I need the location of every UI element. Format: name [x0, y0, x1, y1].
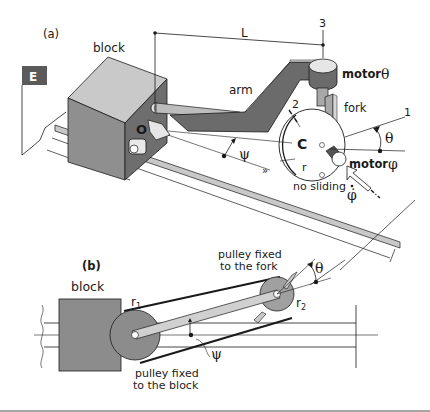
block-b-label: block: [71, 279, 105, 294]
axis-3-label: 3: [319, 17, 326, 30]
r2-label: r2: [296, 296, 306, 312]
theta-b-symbol: θ: [315, 260, 323, 276]
center-C-point: [320, 143, 325, 148]
axis-2-label: 2: [292, 98, 299, 111]
motor-theta-symbol: θ: [381, 66, 389, 82]
axis-1-label: 1: [404, 106, 411, 119]
C-label: C: [297, 136, 307, 152]
no-sliding-label: no sliding: [293, 180, 346, 193]
fork-label: fork: [344, 101, 367, 115]
E-badge: E: [22, 66, 47, 85]
panel-b: (b) block: [34, 248, 378, 392]
connecting-bar: [132, 290, 280, 339]
theta-symbol: θ: [385, 130, 393, 146]
r1-label: r1: [131, 295, 141, 311]
robot-mechanism-diagram: E block (a) O: [0, 0, 430, 412]
panel-a-label: (a): [43, 27, 59, 41]
ground-wall: [22, 85, 66, 155]
psi-b: [188, 318, 210, 357]
arm-label: arm: [229, 83, 253, 97]
panel-a: E block (a) O: [22, 17, 415, 285]
block-label: block: [93, 41, 125, 55]
wheel: [279, 109, 345, 181]
pulley-fork-caption-2: to the fork: [220, 260, 278, 273]
chevrons-arrow: »: [262, 165, 268, 176]
contact-point: [320, 173, 325, 178]
E-label: E: [29, 70, 37, 84]
phidot-symbol: φ̇: [347, 187, 357, 203]
motor-theta-label: motor: [342, 67, 381, 81]
motor-phi-symbol: φ: [388, 156, 398, 172]
psi-b-symbol: ψ: [211, 346, 222, 362]
O-label: O: [136, 122, 147, 137]
pulley-block-caption-2: to the block: [133, 379, 199, 392]
L-label: L: [241, 26, 248, 40]
roller: [129, 139, 146, 154]
panel-b-label: (b): [82, 259, 101, 273]
r-label: r: [302, 161, 307, 174]
psi-angle: [168, 131, 295, 170]
psi-symbol: ψ: [239, 146, 250, 162]
